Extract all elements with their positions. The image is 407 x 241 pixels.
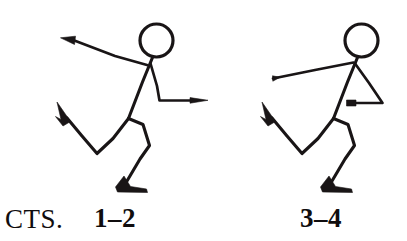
figure-left-standing-foot <box>116 176 148 193</box>
figure-right-standing-foot <box>321 176 353 193</box>
figure-left-back-hand <box>61 36 76 44</box>
figure-right-lifted-leg <box>272 118 334 154</box>
figure-left-front-arm <box>151 64 197 101</box>
figure-right <box>261 24 383 193</box>
figure-left-pointed-toe <box>56 102 71 126</box>
count-label-1-2: 1–2 <box>94 205 136 232</box>
figure-left-head <box>140 24 173 57</box>
figure-left-front-hand <box>190 98 208 104</box>
figure-left-back-arm <box>73 40 147 65</box>
figure-right-pointed-toe <box>261 102 276 126</box>
figure-left <box>56 24 209 193</box>
figure-left-torso <box>129 58 153 119</box>
caption-row: CTS. 1–2 3–4 <box>0 196 407 241</box>
figure-right-head <box>345 24 378 57</box>
figure-left-standing-leg <box>127 119 150 182</box>
count-label-3-4: 3–4 <box>300 205 342 232</box>
figure-left-lifted-leg <box>67 118 129 154</box>
figure-right-front-arm <box>352 64 383 104</box>
page-canvas: CTS. 1–2 3–4 <box>0 0 407 241</box>
figure-right-back-arm <box>273 63 354 79</box>
figure-right-front-hand <box>347 100 357 106</box>
figure-right-standing-leg <box>332 119 355 182</box>
counts-label: CTS. <box>5 206 63 233</box>
